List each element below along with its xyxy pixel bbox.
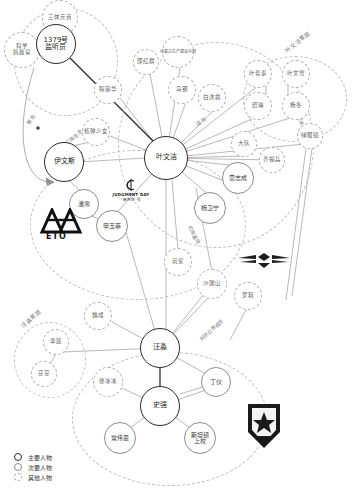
eto-caption: ETO	[46, 232, 67, 241]
node-bai-mulin[interactable]: 白沐霖	[198, 84, 226, 112]
node-label: 杨卫宁	[200, 205, 220, 211]
node-label: 潘寒	[77, 201, 91, 207]
legend-label-other: 其他人物	[28, 473, 52, 482]
node-label: 1379号监听员	[43, 37, 70, 52]
node-label: 罗辑	[241, 293, 255, 299]
node-wei-cheng[interactable]: 魏成	[84, 302, 112, 330]
node-shao-lin[interactable]: 绍琳	[244, 92, 272, 120]
node-nuclear-girl[interactable]: 核弹少女	[82, 118, 110, 146]
node-label: 史强	[152, 402, 168, 409]
node-shi-qiang[interactable]: 史强	[140, 386, 180, 426]
node-label: 核弹少女	[83, 129, 109, 135]
node-label: 常伟思	[110, 435, 130, 441]
legend: 主要人物 次要人物 其他人物	[14, 452, 52, 482]
node-label: 叶文雪	[286, 71, 306, 77]
judgment-day-emblem: JUDGMENT DAY "审判日"号	[110, 178, 152, 204]
node-label: 程丽华	[98, 87, 118, 93]
node-ding-yi[interactable]: 丁仪	[201, 367, 231, 397]
node-colonel-stanton[interactable]: 斯坦顿上校	[184, 422, 216, 454]
node-yang-dong[interactable]: 杨冬	[282, 92, 310, 120]
node-label: 玩家	[171, 259, 185, 265]
node-ye-wenxue[interactable]: 叶文雪	[282, 60, 310, 88]
node-xu-bingbing[interactable]: 徐冰冰	[93, 367, 123, 397]
node-label: 马钢	[175, 87, 189, 93]
legend-label-main: 主要人物	[28, 453, 52, 462]
node-ma-gang[interactable]: 马钢	[168, 76, 196, 104]
node-science-consul[interactable]: 科学执政官	[4, 32, 40, 68]
node-ye-zhetai[interactable]: 叶哲泰	[244, 60, 272, 88]
node-listener-1379[interactable]: 1379号监听员	[36, 24, 76, 64]
node-label: 绍琳	[251, 103, 265, 109]
node-yang-weining[interactable]: 杨卫宁	[194, 192, 226, 224]
node-li-yao[interactable]: 李瑶	[43, 329, 69, 355]
node-label: 徐冰冰	[98, 379, 118, 385]
node-label: 科学执政官	[12, 44, 32, 56]
node-label: 白沐霖	[202, 95, 222, 101]
legend-swatch-main-icon	[14, 453, 22, 461]
node-lei-zhicheng[interactable]: 雷志成	[222, 162, 254, 194]
node-inner-mongolia-corps[interactable]: 内蒙古生产建设兵团	[162, 36, 194, 68]
judgment-day-subtitle: "审判日"号	[110, 197, 152, 202]
node-sha-ruishan[interactable]: 沙瑞山	[197, 269, 227, 299]
node-label: 内蒙古生产建设兵团	[159, 50, 197, 54]
node-player[interactable]: 玩家	[164, 248, 192, 276]
node-label: 丁仪	[209, 379, 223, 385]
node-dou-dou[interactable]: 豆豆	[31, 361, 57, 387]
node-label: 伊文斯	[53, 158, 76, 165]
air-force-wings-emblem	[236, 250, 292, 270]
node-shao-hongjun[interactable]: 邵红群	[133, 49, 159, 75]
eto-emblem: ETO	[38, 208, 84, 242]
node-luo-ji[interactable]: 罗辑	[234, 282, 262, 310]
node-evans[interactable]: 伊文斯	[44, 142, 84, 182]
battle-command-emblem	[244, 400, 284, 452]
legend-row-secondary: 次要人物	[14, 462, 52, 472]
node-ye-wenjie[interactable]: 叶文洁	[144, 136, 188, 180]
node-label: 叶哲泰	[248, 71, 268, 77]
node-label: 李瑶	[49, 339, 63, 345]
node-label: 豆豆	[37, 371, 51, 377]
legend-swatch-other-icon	[14, 473, 22, 481]
node-label: 绿眼镜	[300, 133, 320, 139]
node-label: 邵红群	[136, 59, 156, 65]
legend-row-main: 主要人物	[14, 452, 52, 462]
legend-swatch-secondary-icon	[14, 463, 22, 471]
node-da-dui[interactable]: 大队	[231, 131, 257, 157]
legend-label-secondary: 次要人物	[28, 463, 52, 472]
node-label: 沙瑞山	[202, 281, 222, 287]
legend-row-other: 其他人物	[14, 472, 52, 482]
node-label: 三体元首	[47, 15, 73, 21]
relationship-graph-canvas: 叶文洁家庭 汪淼家庭 警告 知道三体信息 送书 红岸基地 纳米材料 科学边界成员…	[0, 0, 356, 503]
node-label: 雷志成	[228, 175, 248, 181]
node-qi-fubing[interactable]: 齐福兵	[259, 147, 285, 173]
node-label: 魏成	[91, 313, 105, 319]
node-label: 齐福兵	[262, 157, 282, 163]
node-label: 申玉菲	[102, 223, 122, 229]
node-label: 斯坦顿上校	[190, 432, 210, 445]
node-shen-yufei[interactable]: 申玉菲	[96, 210, 128, 242]
node-label: 大队	[237, 141, 251, 147]
node-cheng-lihua[interactable]: 程丽华	[94, 76, 122, 104]
node-chang-weisi[interactable]: 常伟思	[104, 422, 136, 454]
node-wang-miao[interactable]: 汪淼	[140, 328, 180, 368]
node-label: 汪淼	[152, 344, 168, 351]
node-label: 叶文洁	[155, 154, 178, 161]
node-label: 杨冬	[289, 103, 303, 109]
node-green-glasses[interactable]: 绿眼镜	[297, 123, 323, 149]
